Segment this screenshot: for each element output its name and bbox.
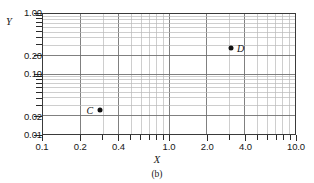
x-tick-mark (130, 135, 131, 140)
y-tick-label: 0.10 (24, 69, 42, 79)
x-tick-label: 0.1 (36, 142, 49, 152)
x-tick-label: 10.0 (287, 142, 305, 152)
grid-lines (43, 14, 295, 134)
x-tick-label: 4.0 (239, 142, 252, 152)
x-tick-label: 0.2 (74, 142, 87, 152)
x-tick-mark (149, 135, 150, 140)
y-tick-label: 0.02 (24, 112, 42, 122)
data-point-marker[interactable] (97, 107, 102, 112)
y-tick-label: 0.01 (24, 130, 42, 140)
y-tick-label: 1.00 (24, 8, 42, 18)
x-tick-label: 1.0 (163, 142, 176, 152)
x-tick-mark (140, 135, 141, 140)
x-tick-mark (276, 135, 277, 140)
x-tick-mark (102, 135, 103, 140)
x-tick-mark (283, 135, 284, 140)
x-tick-mark (229, 135, 230, 140)
x-tick-mark (156, 135, 157, 140)
plot-area: CD (42, 13, 296, 135)
data-point-label: C (86, 104, 93, 115)
x-tick-mark (257, 135, 258, 140)
x-tick-mark (267, 135, 268, 140)
y-axis-title: Y (6, 16, 12, 27)
x-tick-label: 0.4 (112, 142, 125, 152)
x-axis-title: X (0, 154, 314, 165)
data-point-label: D (237, 42, 244, 53)
figure-caption: (b) (0, 169, 314, 179)
x-tick-mark (163, 135, 164, 140)
data-point-marker[interactable] (228, 45, 233, 50)
x-tick-label: 2.0 (201, 142, 214, 152)
figure-log-log-scatter: Y 0.010.020.100.201.00 CD 0.10.20.41.02.… (0, 0, 314, 183)
x-tick-mark (290, 135, 291, 140)
y-tick-label: 0.20 (24, 51, 42, 61)
